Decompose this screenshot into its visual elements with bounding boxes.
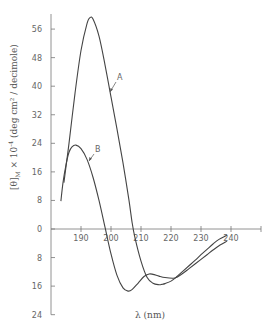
- y-tick-label: 0: [37, 225, 42, 234]
- curve-b-label: B: [95, 145, 101, 154]
- x-tick-label: 200: [103, 234, 118, 243]
- y-tick-label: 16: [32, 282, 42, 291]
- y-tick-label: 32: [32, 111, 42, 120]
- curve-a-label: A: [117, 73, 123, 82]
- y-axis-title: [θ]M × 10-4 (deg cm² / decimole): [7, 44, 21, 190]
- y-tick-label: 16: [32, 168, 42, 177]
- axes: [51, 14, 261, 315]
- x-tick-label: 190: [73, 234, 88, 243]
- curves: [61, 17, 227, 291]
- y-tick-label: 24: [32, 311, 42, 320]
- x-tick-label: 230: [193, 234, 208, 243]
- x-tick-label: 220: [163, 234, 178, 243]
- cd-spectrum-chart: 5648403224168081624190200210220230240 AB…: [0, 0, 278, 329]
- x-axis-title: λ (nm): [135, 310, 165, 320]
- y-tick-label: 8: [37, 254, 42, 263]
- y-tick-label: 48: [32, 54, 42, 63]
- y-tick-label: 8: [37, 196, 42, 205]
- y-tick-label: 40: [32, 82, 42, 91]
- curve-a: [64, 17, 227, 285]
- y-tick-label: 24: [32, 139, 42, 148]
- curve-annotations: AB: [89, 73, 123, 161]
- y-tick-label: 56: [32, 25, 42, 34]
